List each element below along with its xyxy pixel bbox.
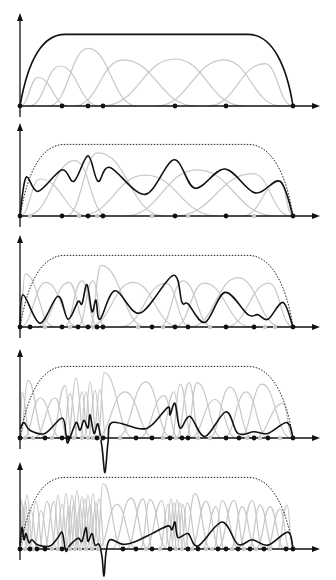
knot-marker-faint [50, 436, 54, 440]
panel-2 [17, 123, 320, 227]
knot-marker [95, 436, 100, 441]
knot-marker [168, 547, 173, 552]
knot-marker [18, 436, 23, 441]
knot-marker-faint [78, 547, 82, 551]
knot-marker [266, 436, 271, 441]
y-axis-arrow-icon [17, 123, 23, 131]
knot-marker-faint [136, 325, 140, 329]
knot-marker-faint [68, 547, 72, 551]
knot-marker [216, 547, 221, 552]
knot-marker-faint [161, 325, 165, 329]
knot-marker [43, 436, 48, 441]
basis-function-curve [226, 283, 293, 327]
basis-function-curve [23, 398, 61, 438]
combination-curve [20, 275, 293, 327]
knot-marker-faint [180, 547, 184, 551]
knot-marker-faint [273, 325, 277, 329]
panel-4 [17, 349, 320, 473]
y-axis-arrow-icon [17, 235, 23, 243]
knot-marker [60, 325, 65, 330]
knot-marker-faint [258, 436, 262, 440]
knot-marker [134, 436, 139, 441]
knot-marker [134, 547, 139, 552]
combination-curve [20, 156, 293, 216]
knot-marker [186, 547, 191, 552]
knot-marker [196, 547, 201, 552]
knot-marker [224, 325, 229, 330]
knot-marker-faint [118, 436, 122, 440]
knot-marker-faint [43, 325, 47, 329]
basis-function-curve [34, 398, 69, 438]
x-axis-arrow-icon [312, 213, 320, 219]
basis-function-curve [175, 174, 291, 216]
panel-5 [17, 462, 320, 576]
knot-marker-faint [50, 547, 54, 551]
knot-marker-faint [268, 547, 272, 551]
knot-marker-faint [230, 547, 234, 551]
knot-marker [186, 325, 191, 330]
knot-marker [168, 436, 173, 441]
knot-marker [291, 547, 296, 552]
knot-marker [86, 214, 91, 219]
knot-marker [101, 436, 106, 441]
basis-function-curve [190, 400, 236, 439]
knot-marker [173, 325, 178, 330]
knot-marker-faint [80, 436, 84, 440]
y-axis-arrow-icon [17, 349, 23, 357]
knot-marker [18, 214, 23, 219]
knot-marker-faint [90, 547, 94, 551]
knot-marker-faint [245, 436, 249, 440]
knot-marker [86, 325, 91, 330]
knot-marker [237, 436, 242, 441]
basis-function-curve [49, 48, 137, 106]
knot-marker-faint [158, 547, 162, 551]
knot-marker-faint [242, 547, 246, 551]
basis-function-curve [186, 383, 222, 438]
knot-marker-faint [23, 436, 27, 440]
partition-of-unity-curve [20, 34, 293, 106]
spline-basis-figure [0, 0, 336, 580]
knot-marker [224, 547, 229, 552]
knot-marker-faint [208, 436, 212, 440]
knot-marker [150, 325, 155, 330]
knot-marker [60, 214, 65, 219]
knot-marker-faint [190, 547, 194, 551]
knot-marker [60, 104, 65, 109]
basis-function-curve [266, 509, 290, 549]
knot-marker [60, 436, 65, 441]
knot-marker-faint [204, 547, 208, 551]
basis-function-curve [74, 60, 196, 106]
knot-marker [101, 104, 106, 109]
knot-marker [291, 436, 296, 441]
knot-marker [236, 547, 241, 552]
knot-marker-faint [150, 214, 154, 218]
panel-3 [17, 235, 320, 338]
knot-marker [66, 436, 71, 441]
basis-function-curve [160, 392, 182, 438]
x-axis-arrow-icon [312, 546, 320, 552]
knot-marker [291, 214, 296, 219]
knot-marker-faint [186, 214, 190, 218]
knot-marker [186, 436, 191, 441]
knot-marker [35, 547, 40, 552]
knot-marker-faint [196, 436, 200, 440]
x-axis-arrow-icon [312, 324, 320, 330]
knot-marker-faint [72, 436, 76, 440]
knot-marker-faint [68, 325, 72, 329]
knot-marker [150, 547, 155, 552]
knot-marker [291, 325, 296, 330]
knot-marker [86, 104, 91, 109]
knot-marker-faint [174, 547, 178, 551]
basis-function-curve [20, 274, 54, 327]
knot-marker-faint [91, 436, 95, 440]
envelope-dotted-curve [20, 144, 293, 216]
y-axis-arrow-icon [17, 462, 23, 470]
knot-marker-faint [56, 547, 60, 551]
basis-function-curve [139, 396, 178, 438]
knot-marker-faint [174, 436, 178, 440]
basis-function-curve [29, 66, 99, 106]
knot-marker-faint [91, 325, 95, 329]
knot-marker [173, 104, 178, 109]
knot-marker [18, 547, 23, 552]
knot-marker [224, 436, 229, 441]
